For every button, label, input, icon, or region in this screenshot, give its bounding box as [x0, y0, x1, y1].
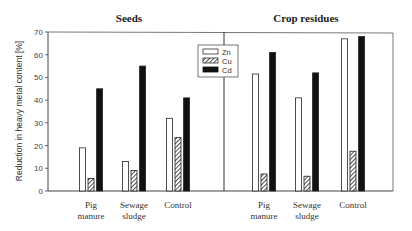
category-label: Control [164, 200, 192, 210]
bar-crop-residues-sewage-sludge-cd [313, 73, 319, 191]
category-label: manure [78, 211, 105, 221]
y-tick-label: 10 [34, 164, 43, 173]
legend-swatch-cu [203, 58, 218, 63]
category-label: Pig [85, 200, 98, 210]
category-label: Sewage [293, 200, 321, 210]
legend-label-cd: Cd [222, 66, 232, 75]
bar-seeds-control-cu [175, 138, 181, 191]
legend-label-cu: Cu [222, 57, 232, 66]
category-label: manure [251, 211, 278, 221]
y-tick-label: 0 [39, 187, 44, 196]
legend-swatch-cd [203, 67, 218, 72]
top-border [48, 32, 393, 33]
bar-seeds-control-cd [184, 98, 190, 191]
legend-label-zn: Zn [222, 48, 231, 57]
bar-crop-residues-control-cd [359, 37, 365, 191]
heavy-metal-reduction-chart: Seeds Crop residues Reduction in heavy m… [0, 0, 412, 231]
bar-crop-residues-control-cu [350, 151, 356, 191]
y-tick-label: 40 [34, 96, 43, 105]
y-axis-label: Reduction in heavy metal content [%] [14, 41, 24, 181]
y-tick-label: 50 [34, 73, 43, 82]
bar-crop-residues-pig-manure-zn [252, 74, 258, 191]
panel-title-crop-residues: Crop residues [273, 12, 339, 24]
legend: Zn Cu Cd [198, 45, 238, 77]
bar-crop-residues-pig-manure-cu [261, 174, 267, 191]
y-tick-label: 70 [34, 28, 43, 37]
bar-seeds-pig-manure-zn [79, 148, 85, 191]
bar-seeds-control-zn [166, 118, 172, 191]
bar-crop-residues-sewage-sludge-zn [295, 98, 301, 191]
category-label: sludge [122, 211, 146, 221]
bar-crop-residues-control-zn [341, 39, 347, 191]
bar-seeds-sewage-sludge-zn [122, 161, 128, 191]
bar-crop-residues-sewage-sludge-cu [304, 176, 310, 191]
category-label: Sewage [120, 200, 148, 210]
bar-seeds-sewage-sludge-cu [131, 171, 137, 191]
bar-crop-residues-pig-manure-cd [270, 52, 276, 191]
bar-seeds-pig-manure-cd [97, 89, 103, 191]
y-tick-label: 60 [34, 51, 43, 60]
y-tick-label: 30 [34, 119, 43, 128]
category-label: Control [339, 200, 367, 210]
category-label: sludge [295, 211, 319, 221]
legend-swatch-zn [203, 49, 218, 54]
y-tick-label: 20 [34, 142, 43, 151]
category-label: Pig [258, 200, 271, 210]
bar-seeds-sewage-sludge-cd [140, 66, 146, 191]
bar-seeds-pig-manure-cu [88, 179, 94, 191]
panel-title-seeds: Seeds [116, 12, 143, 24]
